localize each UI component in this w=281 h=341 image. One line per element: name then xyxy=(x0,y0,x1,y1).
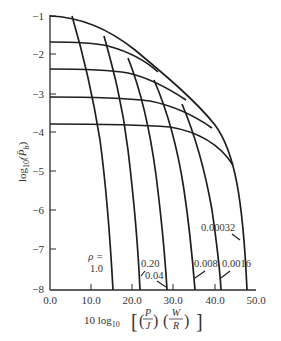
svg-text:30.0: 30.0 xyxy=(163,294,183,306)
x-tick-labels: 0.0 10.0 20.0 30.0 40.0 50.0 xyxy=(43,294,266,306)
label-rho-0.008: 0.008 xyxy=(194,258,218,269)
rho-label: ρ = xyxy=(87,251,103,262)
vertical-curves xyxy=(72,16,221,290)
svg-text:]: ] xyxy=(196,310,203,332)
svg-text:0.0: 0.0 xyxy=(43,294,57,306)
arrow-0.0016 xyxy=(221,271,230,278)
svg-text:10 log10: 10 log10 xyxy=(84,314,120,329)
x-axis-label: 10 log10 [ ] ( P J ) ( W R ) xyxy=(84,307,203,332)
svg-text:(: ( xyxy=(139,312,144,330)
x-ticks xyxy=(91,284,215,290)
svg-text:J: J xyxy=(146,320,151,331)
svg-text:40.0: 40.0 xyxy=(205,294,225,306)
svg-text:−5: −5 xyxy=(32,165,44,177)
y-axis-label: log10(P̄b) xyxy=(16,142,31,182)
svg-text:10.0: 10.0 xyxy=(81,294,101,306)
svg-text:(: ( xyxy=(163,312,168,330)
label-rho-1.0: 1.0 xyxy=(90,263,103,274)
label-rho-0.04: 0.04 xyxy=(145,270,164,281)
curve-rho-0.04 xyxy=(128,58,167,290)
svg-text:P: P xyxy=(144,307,151,318)
horizontal-curves xyxy=(50,42,233,165)
arrow-0.00032 xyxy=(232,234,240,240)
svg-text:−1: −1 xyxy=(32,10,44,22)
svg-text:[: [ xyxy=(131,310,138,332)
y-ticks xyxy=(50,16,56,249)
svg-text:−6: −6 xyxy=(32,204,44,216)
svg-text:log10(P̄b): log10(P̄b) xyxy=(16,142,31,182)
svg-text:): ) xyxy=(153,312,158,330)
svg-text:−7: −7 xyxy=(32,243,44,255)
svg-text:R: R xyxy=(172,320,179,331)
label-rho-0.0016: 0.0016 xyxy=(222,258,251,269)
chart: −1 −2 −3 −4 −5 −6 −7 −8 0.0 10.0 20.0 30… xyxy=(0,0,281,341)
svg-text:−2: −2 xyxy=(32,48,44,60)
svg-text:20.0: 20.0 xyxy=(122,294,142,306)
curve-level-3 xyxy=(50,69,186,100)
y-tick-labels: −1 −2 −3 −4 −5 −6 −7 −8 xyxy=(32,10,44,295)
label-rho-0.00032: 0.00032 xyxy=(201,222,235,233)
arrow-0.008 xyxy=(195,271,205,278)
svg-text:−4: −4 xyxy=(32,126,44,138)
svg-text:−3: −3 xyxy=(32,88,44,100)
curve-level-5 xyxy=(50,124,233,165)
svg-text:W: W xyxy=(172,307,182,318)
curve-level-2 xyxy=(50,42,158,72)
arrow-0.04 xyxy=(157,281,166,287)
curve-rho-1.0 xyxy=(72,16,113,290)
curve-rho-0.008 xyxy=(154,80,195,290)
svg-text:): ) xyxy=(184,312,189,330)
svg-text:50.0: 50.0 xyxy=(246,294,266,306)
label-rho-0.20: 0.20 xyxy=(141,258,159,269)
